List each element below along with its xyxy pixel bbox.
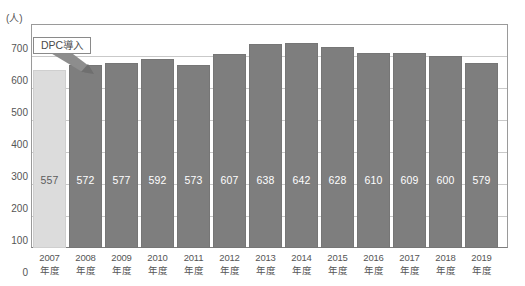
bar-value-2009: 577 — [106, 175, 137, 186]
x-label-2011-year: 2011 — [177, 251, 210, 264]
bar-chart: (人) 700 600 500 400 300 200 100 0 557 57… — [0, 0, 525, 286]
bar-value-2018: 600 — [430, 175, 461, 186]
x-label-2012-suffix: 年度 — [213, 264, 246, 277]
bar-2019: 579 — [465, 63, 498, 248]
x-label-2019-year: 2019 — [465, 251, 498, 264]
bar-2014: 642 — [285, 43, 318, 248]
x-label-2016: 2016 年度 — [357, 251, 390, 277]
bar-slot-2013: 638 — [249, 24, 282, 248]
bar-value-2012: 607 — [214, 175, 245, 186]
bar-2017: 609 — [393, 53, 426, 248]
bar-slot-2011: 573 — [177, 24, 210, 248]
x-label-2019-suffix: 年度 — [465, 264, 498, 277]
bar-2015: 628 — [321, 47, 354, 248]
bar-value-2007: 557 — [34, 175, 65, 186]
bar-2018: 600 — [429, 56, 462, 248]
bar-slot-2010: 592 — [141, 24, 174, 248]
bar-value-2008: 572 — [70, 175, 101, 186]
x-label-2014-suffix: 年度 — [285, 264, 318, 277]
x-label-2018: 2018 年度 — [429, 251, 462, 277]
x-label-2009-suffix: 年度 — [105, 264, 138, 277]
y-tick-400: 400 — [2, 140, 28, 150]
x-label-2018-suffix: 年度 — [429, 264, 462, 277]
x-label-2010-suffix: 年度 — [141, 264, 174, 277]
bar-2012: 607 — [213, 54, 246, 248]
bar-value-2016: 610 — [358, 175, 389, 186]
bar-slot-2009: 577 — [105, 24, 138, 248]
x-label-2016-year: 2016 — [357, 251, 390, 264]
x-label-2017: 2017 年度 — [393, 251, 426, 277]
x-label-2009: 2009 年度 — [105, 251, 138, 277]
x-label-2007-suffix: 年度 — [33, 264, 66, 277]
y-tick-200: 200 — [2, 204, 28, 214]
y-tick-700: 700 — [2, 44, 28, 54]
bars-layer: 557 572 577 592 573 607 — [31, 24, 508, 248]
bar-value-2014: 642 — [286, 175, 317, 186]
x-label-2014: 2014 年度 — [285, 251, 318, 277]
y-tick-100: 100 — [2, 236, 28, 246]
x-label-2010: 2010 年度 — [141, 251, 174, 277]
x-label-2019: 2019 年度 — [465, 251, 498, 277]
bar-value-2010: 592 — [142, 175, 173, 186]
x-label-2007-year: 2007 — [33, 251, 66, 264]
x-label-2011: 2011 年度 — [177, 251, 210, 277]
x-label-2016-suffix: 年度 — [357, 264, 390, 277]
bar-2007: 557 — [33, 70, 66, 248]
bar-slot-2012: 607 — [213, 24, 246, 248]
bar-value-2015: 628 — [322, 175, 353, 186]
x-label-2013: 2013 年度 — [249, 251, 282, 277]
x-label-2015-suffix: 年度 — [321, 264, 354, 277]
x-label-2012: 2012 年度 — [213, 251, 246, 277]
x-label-2007: 2007 年度 — [33, 251, 66, 277]
bar-value-2011: 573 — [178, 175, 209, 186]
y-tick-500: 500 — [2, 108, 28, 118]
x-label-2017-year: 2017 — [393, 251, 426, 264]
bar-2010: 592 — [141, 59, 174, 248]
x-label-2012-year: 2012 — [213, 251, 246, 264]
x-label-2017-suffix: 年度 — [393, 264, 426, 277]
x-label-2009-year: 2009 — [105, 251, 138, 264]
x-label-2008: 2008 年度 — [69, 251, 102, 277]
bar-slot-2008: 572 — [69, 24, 102, 248]
y-tick-0: 0 — [2, 268, 28, 278]
bar-2009: 577 — [105, 63, 138, 248]
x-label-2011-suffix: 年度 — [177, 264, 210, 277]
bar-value-2013: 638 — [250, 175, 281, 186]
x-label-2008-year: 2008 — [69, 251, 102, 264]
x-axis-tick-labels: 2007 年度 2008 年度 2009 年度 2010 年度 2011 年度 … — [31, 251, 508, 285]
bar-slot-2007: 557 — [33, 24, 66, 248]
x-label-2015: 2015 年度 — [321, 251, 354, 277]
x-label-2013-year: 2013 — [249, 251, 282, 264]
x-label-2013-suffix: 年度 — [249, 264, 282, 277]
x-label-2008-suffix: 年度 — [69, 264, 102, 277]
x-label-2015-year: 2015 — [321, 251, 354, 264]
bar-slot-2019: 579 — [465, 24, 498, 248]
x-label-2014-year: 2014 — [285, 251, 318, 264]
y-tick-600: 600 — [2, 76, 28, 86]
dpc-introduction-callout: DPC導入 — [33, 37, 91, 54]
bar-value-2019: 579 — [466, 175, 497, 186]
y-tick-300: 300 — [2, 172, 28, 182]
y-axis-tick-labels: 700 600 500 400 300 200 100 0 — [0, 24, 28, 248]
bar-value-2017: 609 — [394, 175, 425, 186]
bar-2016: 610 — [357, 53, 390, 248]
bar-slot-2017: 609 — [393, 24, 426, 248]
x-label-2018-year: 2018 — [429, 251, 462, 264]
x-label-2010-year: 2010 — [141, 251, 174, 264]
bar-slot-2016: 610 — [357, 24, 390, 248]
bar-2008: 572 — [69, 65, 102, 248]
bar-slot-2015: 628 — [321, 24, 354, 248]
bar-2013: 638 — [249, 44, 282, 248]
bar-slot-2018: 600 — [429, 24, 462, 248]
bar-2011: 573 — [177, 65, 210, 248]
bar-slot-2014: 642 — [285, 24, 318, 248]
